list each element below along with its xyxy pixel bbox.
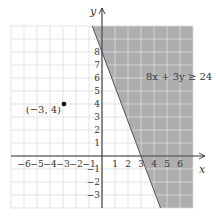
x-tick-label: 6 xyxy=(177,159,183,169)
y-tick-label: 5 xyxy=(94,86,100,96)
x-tick-label: −2 xyxy=(69,159,82,169)
x-tick-label: −3 xyxy=(56,159,70,169)
graph-container: −6−5−4−3−2−1123456−3−2−112345678 8x + 3y… xyxy=(0,0,216,220)
x-tick-label: −4 xyxy=(43,159,57,169)
y-tick-label: 6 xyxy=(94,73,100,83)
y-tick-label: 3 xyxy=(94,112,100,122)
y-tick-label: 4 xyxy=(94,99,100,109)
y-tick-label: −1 xyxy=(87,164,100,174)
x-tick-label: −6 xyxy=(17,159,31,169)
x-tick-label: 4 xyxy=(151,159,157,169)
x-tick-label: 5 xyxy=(164,159,170,169)
y-tick-label: −3 xyxy=(87,190,101,200)
x-tick-label: −5 xyxy=(30,159,44,169)
x-axis-label: x xyxy=(199,163,206,176)
y-axis-label: y xyxy=(89,5,97,18)
y-tick-label: 7 xyxy=(94,60,100,70)
x-tick-label: 1 xyxy=(112,159,118,169)
data-point xyxy=(62,102,67,107)
y-tick-label: −2 xyxy=(87,177,100,187)
y-tick-label: 1 xyxy=(94,138,100,148)
inequality-label: 8x + 3y ≥ 24 xyxy=(146,71,212,82)
y-tick-label: 8 xyxy=(94,47,100,57)
inequality-graph: −6−5−4−3−2−1123456−3−2−112345678 8x + 3y… xyxy=(0,0,216,220)
point-label: (−3, 4) xyxy=(26,104,61,115)
x-tick-label: 2 xyxy=(125,159,131,169)
x-tick-label: 3 xyxy=(138,159,144,169)
points: (−3, 4) xyxy=(26,102,67,115)
y-tick-label: 2 xyxy=(94,125,100,135)
